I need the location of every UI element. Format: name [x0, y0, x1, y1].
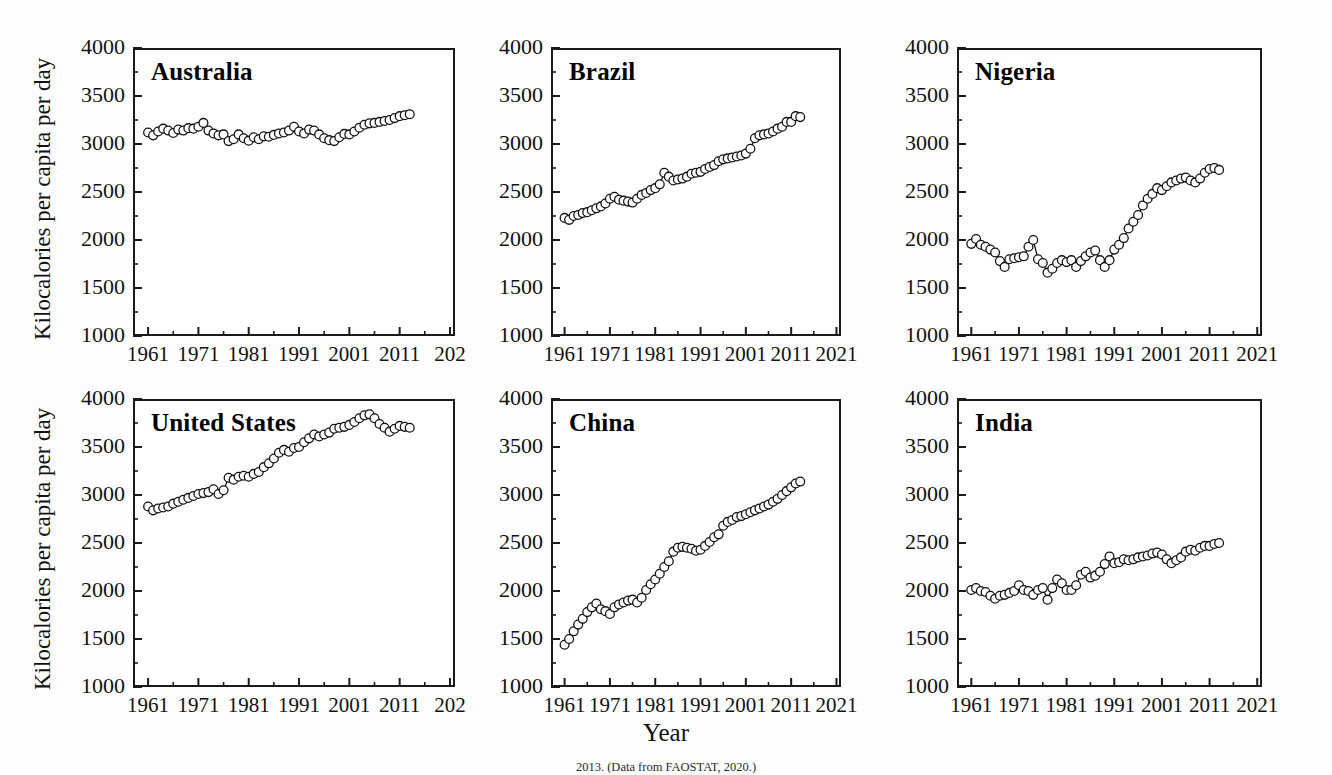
- data-point: [1072, 581, 1081, 590]
- y-tick-label: 2500: [473, 529, 543, 555]
- data-point: [714, 530, 723, 539]
- y-tick-label: 2500: [55, 178, 125, 204]
- y-tick-label: 3000: [879, 130, 949, 156]
- data-point: [1038, 584, 1047, 593]
- y-tick-label: 2000: [879, 226, 949, 252]
- data-point: [1038, 259, 1047, 268]
- data-point: [405, 423, 414, 432]
- y-tick-label: 3500: [473, 433, 543, 459]
- y-tick-label: 1500: [879, 274, 949, 300]
- data-point: [991, 248, 1000, 257]
- y-tick-label: 3500: [879, 82, 949, 108]
- y-tick-label: 3500: [55, 433, 125, 459]
- y-tick-label: 3000: [55, 481, 125, 507]
- data-point: [1134, 211, 1143, 220]
- y-tick-label: 3000: [55, 130, 125, 156]
- x-tick-label: 2021: [1222, 693, 1292, 718]
- data-point: [1215, 539, 1224, 548]
- y-axis-label-bottom: Kilocalories per capita per day: [30, 408, 56, 690]
- y-tick-label: 4000: [879, 34, 949, 60]
- figure-caption: 2013. (Data from FAOSTAT, 2020.): [366, 760, 966, 773]
- plot-canvas-brazil: [511, 8, 881, 376]
- y-tick-label: 1500: [473, 625, 543, 651]
- data-point: [219, 486, 228, 495]
- y-axis-label-top: Kilocalories per capita per day: [30, 58, 56, 340]
- y-tick-label: 1500: [55, 625, 125, 651]
- data-point: [796, 477, 805, 486]
- y-tick-label: 1500: [55, 274, 125, 300]
- y-tick-label: 3500: [55, 82, 125, 108]
- y-tick-label: 4000: [473, 385, 543, 411]
- data-point: [796, 113, 805, 122]
- data-point: [1091, 246, 1100, 255]
- data-point: [1019, 252, 1028, 261]
- y-tick-label: 3000: [879, 481, 949, 507]
- data-point: [1029, 236, 1038, 245]
- y-tick-label: 3500: [473, 82, 543, 108]
- data-point: [1043, 595, 1052, 604]
- y-tick-label: 2000: [55, 226, 125, 252]
- plot-canvas-china: [511, 359, 881, 727]
- data-point: [1215, 166, 1224, 175]
- y-tick-label: 2000: [473, 577, 543, 603]
- data-point: [405, 110, 414, 119]
- data-point: [1048, 584, 1057, 593]
- plot-canvas-united-states: [93, 359, 495, 727]
- y-tick-label: 2500: [879, 529, 949, 555]
- data-point: [1119, 234, 1128, 243]
- y-tick-label: 2500: [473, 178, 543, 204]
- y-tick-label: 4000: [879, 385, 949, 411]
- x-tick-label: 2021: [801, 693, 871, 718]
- y-tick-label: 2000: [55, 577, 125, 603]
- plot-canvas-australia: [93, 8, 495, 376]
- y-tick-label: 2000: [879, 577, 949, 603]
- data-point: [1105, 256, 1114, 265]
- y-tick-label: 3500: [879, 433, 949, 459]
- y-tick-label: 4000: [473, 34, 543, 60]
- y-tick-label: 2500: [55, 529, 125, 555]
- data-point: [746, 144, 755, 153]
- data-point: [655, 180, 664, 189]
- plot-canvas-india: [917, 359, 1302, 727]
- y-tick-label: 3000: [473, 130, 543, 156]
- figure-root: Australia1000150020002500300035004000196…: [0, 0, 1332, 775]
- y-tick-label: 4000: [55, 34, 125, 60]
- x-axis-label: Year: [596, 719, 736, 747]
- plot-canvas-nigeria: [917, 8, 1302, 376]
- y-tick-label: 3000: [473, 481, 543, 507]
- y-tick-label: 1500: [879, 625, 949, 651]
- y-tick-label: 1500: [473, 274, 543, 300]
- y-tick-label: 2000: [473, 226, 543, 252]
- y-tick-label: 4000: [55, 385, 125, 411]
- y-tick-label: 2500: [879, 178, 949, 204]
- data-point: [664, 557, 673, 566]
